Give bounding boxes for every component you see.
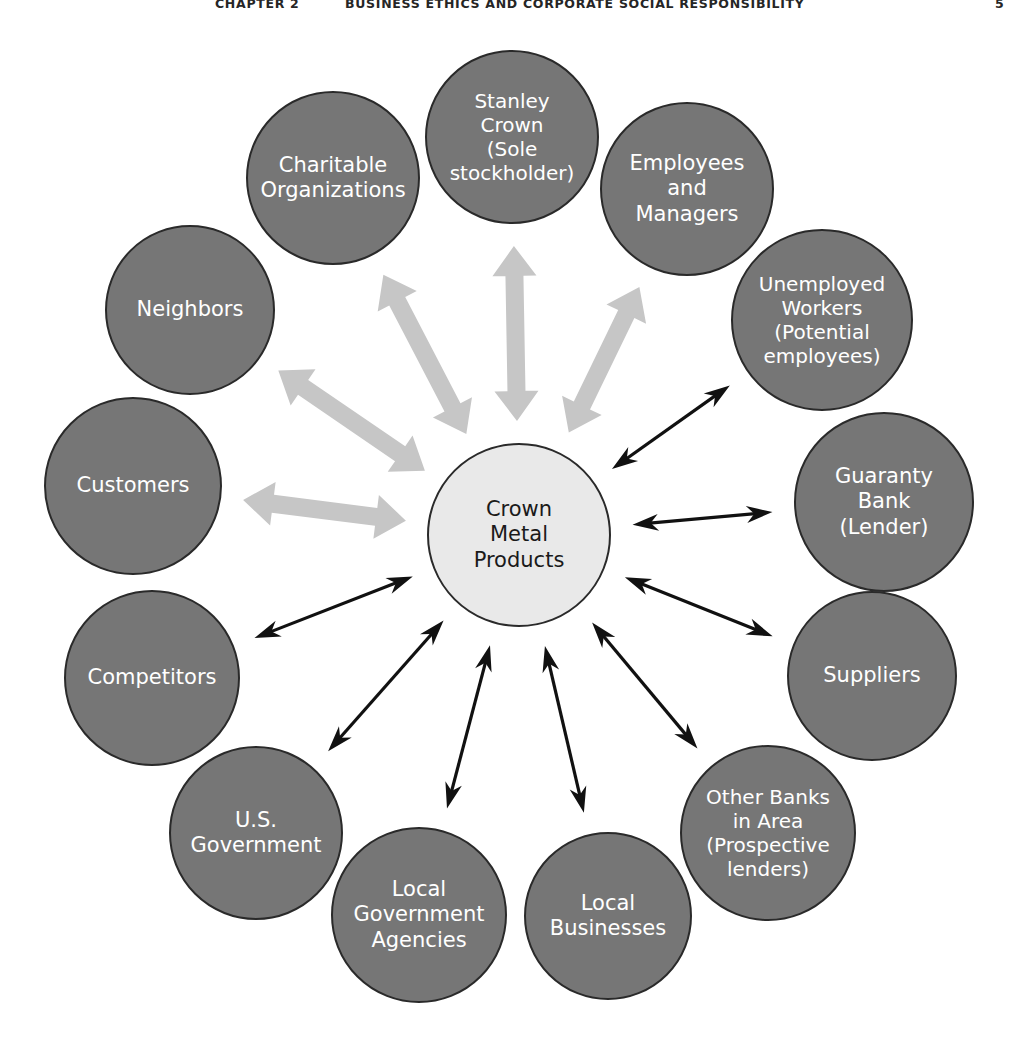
stakeholder-node-local-government-agencies: Local Government Agencies [331, 827, 507, 1003]
stakeholder-node-competitors: Competitors [64, 590, 240, 766]
connector-shaft [638, 583, 759, 631]
stakeholder-node-label: Employees and Managers [622, 151, 753, 227]
stakeholder-node-label: Guaranty Bank (Lender) [827, 464, 941, 540]
page: CHAPTER 2 BUSINESS ETHICS AND CORPORATE … [0, 0, 1022, 1063]
stakeholder-node-label: Suppliers [815, 663, 928, 688]
connector-center-to-other-banks-in-area [592, 622, 697, 748]
connector-center-to-customers [243, 482, 406, 539]
stakeholder-node-label: Customers [69, 473, 198, 498]
stakeholder-node-unemployed-workers: Unemployed Workers (Potential employees) [731, 229, 913, 411]
stakeholder-node-neighbors: Neighbors [105, 225, 275, 395]
connector-center-to-us-government [328, 620, 443, 751]
connector-shaft [268, 582, 400, 633]
connector-center-to-guaranty-bank [633, 506, 773, 531]
stakeholder-node-charitable-organizations: Charitable Organizations [246, 91, 420, 265]
connector-center-to-employees-and-managers [562, 287, 646, 432]
connector-center-to-stanley-crown [492, 246, 538, 421]
stakeholder-node-employees-and-managers: Employees and Managers [600, 102, 774, 276]
stakeholder-node-label: Unemployed Workers (Potential employees) [751, 272, 893, 368]
connector-center-to-suppliers [625, 577, 773, 636]
stakeholder-node-label: Competitors [80, 665, 225, 690]
stakeholder-node-us-government: U.S. Government [169, 746, 343, 920]
connector-center-to-local-government-agencies [445, 645, 491, 808]
stakeholder-node-label: Neighbors [129, 297, 252, 322]
connector-shaft [647, 513, 758, 523]
connector-arrowhead [612, 447, 638, 469]
stakeholder-node-label: U.S. Government [183, 808, 330, 858]
stakeholder-node-customers: Customers [44, 397, 222, 575]
stakeholder-node-other-banks-in-area: Other Banks in Area (Prospective lenders… [680, 745, 856, 921]
connector-center-to-charitable-organizations [378, 275, 472, 434]
stakeholder-node-suppliers: Suppliers [787, 591, 957, 761]
connector-shaft [338, 631, 435, 740]
stakeholder-node-label: Local Government Agencies [346, 877, 493, 953]
connector-center-to-local-businesses [543, 646, 587, 813]
center-node-label: Crown Metal Products [466, 497, 573, 573]
connector-shaft [624, 394, 719, 461]
stakeholder-node-label: Other Banks in Area (Prospective lenders… [698, 785, 838, 881]
connector-arrowhead [704, 385, 730, 407]
connector-shaft [601, 633, 688, 737]
stakeholder-node-stanley-crown: Stanley Crown (Sole stockholder) [425, 50, 599, 224]
stakeholder-diagram: Stanley Crown (Sole stockholder)Charitab… [0, 0, 1022, 1063]
stakeholder-node-label: Local Businesses [542, 891, 674, 941]
connector-shaft [548, 660, 580, 799]
connector-shaft [451, 659, 487, 795]
stakeholder-node-label: Charitable Organizations [252, 153, 413, 203]
center-node-crown-metal-products: Crown Metal Products [427, 443, 611, 627]
connector-center-to-unemployed-workers [612, 385, 730, 469]
connector-center-to-neighbors [278, 369, 425, 472]
stakeholder-node-local-businesses: Local Businesses [524, 832, 692, 1000]
stakeholder-node-label: Stanley Crown (Sole stockholder) [442, 89, 583, 185]
stakeholder-node-guaranty-bank: Guaranty Bank (Lender) [794, 412, 974, 592]
connector-center-to-competitors [254, 576, 412, 638]
